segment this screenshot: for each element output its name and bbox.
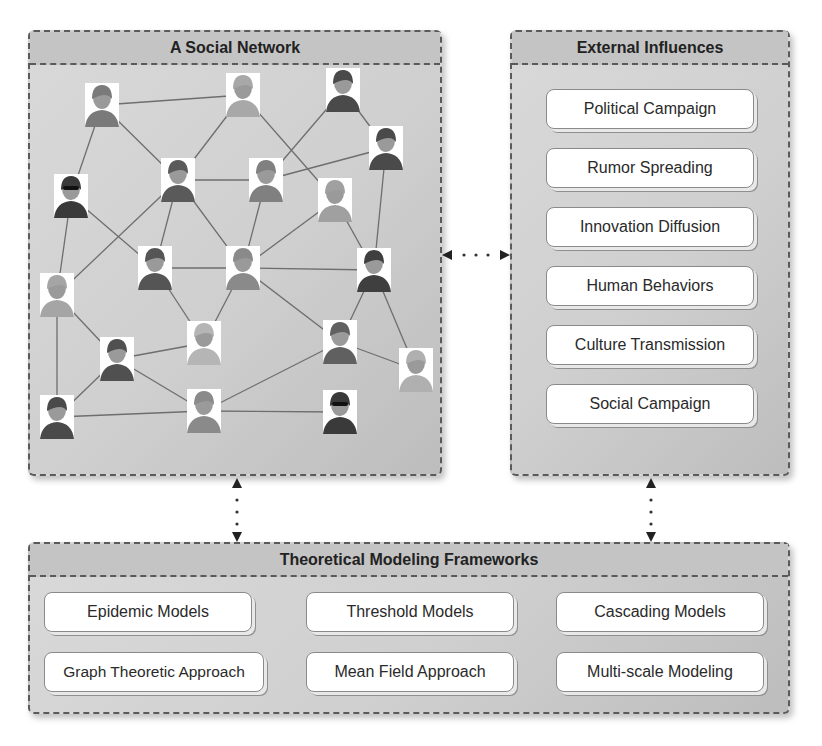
person-node-icon[interactable] [187, 321, 221, 365]
network-edge [204, 411, 340, 412]
framework-multi-scale-modeling[interactable]: Multi-scale Modeling [556, 652, 764, 692]
framework-epidemic-models[interactable]: Epidemic Models [44, 592, 252, 632]
network-external-connector [440, 245, 512, 265]
arrow-down-icon [646, 532, 656, 542]
person-node-icon[interactable] [100, 337, 134, 381]
person-node-icon[interactable] [85, 83, 119, 127]
arrow-right-icon [500, 250, 510, 260]
arrow-left-icon [442, 250, 452, 260]
person-node-icon[interactable] [369, 126, 403, 170]
person-node-icon[interactable] [40, 395, 74, 439]
external-influences-title: External Influences [512, 32, 788, 65]
person-node-icon[interactable] [357, 248, 391, 292]
influence-culture-transmission[interactable]: Culture Transmission [546, 325, 754, 365]
network-edge [57, 411, 204, 417]
influence-human-behaviors[interactable]: Human Behaviors [546, 266, 754, 306]
network-edge [243, 268, 374, 270]
network-edge [204, 342, 340, 411]
arrow-up-icon [646, 478, 656, 488]
person-node-icon[interactable] [318, 178, 352, 222]
framework-threshold-models[interactable]: Threshold Models [306, 592, 514, 632]
person-node-icon[interactable] [323, 390, 357, 434]
framework-mean-field-approach[interactable]: Mean Field Approach [306, 652, 514, 692]
network-edge [102, 95, 243, 105]
external-frameworks-connector [641, 476, 661, 544]
arrow-down-icon [232, 532, 242, 542]
network-edge [266, 148, 386, 180]
arrow-up-icon [232, 478, 242, 488]
framework-graph-theoretic-approach[interactable]: Graph Theoretic Approach [44, 652, 264, 692]
person-node-icon[interactable] [40, 273, 74, 317]
network-frameworks-connector [227, 476, 247, 544]
person-node-icon[interactable] [249, 158, 283, 202]
frameworks-title: Theoretical Modeling Frameworks [30, 544, 788, 577]
framework-cascading-models[interactable]: Cascading Models [556, 592, 764, 632]
person-node-icon[interactable] [399, 348, 433, 392]
person-node-icon[interactable] [54, 174, 88, 218]
person-node-icon[interactable] [187, 389, 221, 433]
influence-political-campaign[interactable]: Political Campaign [546, 89, 754, 129]
influence-rumor-spreading[interactable]: Rumor Spreading [546, 148, 754, 188]
influence-innovation-diffusion[interactable]: Innovation Diffusion [546, 207, 754, 247]
person-node-icon[interactable] [138, 246, 172, 290]
person-node-icon[interactable] [326, 68, 360, 112]
person-node-icon[interactable] [323, 320, 357, 364]
person-node-icon[interactable] [161, 158, 195, 202]
person-node-icon[interactable] [226, 73, 260, 117]
person-node-icon[interactable] [226, 246, 260, 290]
influence-social-campaign[interactable]: Social Campaign [546, 384, 754, 424]
